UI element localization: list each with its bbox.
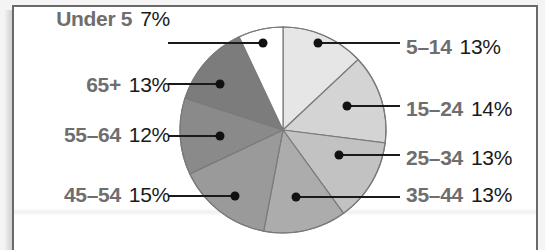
label-category: 45–54 — [64, 183, 121, 206]
label-percent: 13% — [471, 183, 512, 206]
label-category: 35–44 — [406, 183, 463, 206]
label-percent: 12% — [129, 123, 170, 146]
label-percent: 14% — [471, 97, 512, 120]
pie-slices — [180, 27, 386, 233]
label-category: 15–24 — [406, 97, 463, 120]
label-55-64: 55–6412% — [20, 123, 170, 147]
label-45-54: 45–5415% — [20, 183, 170, 207]
label-35-44: 35–4413% — [406, 183, 512, 207]
label-category: 55–64 — [64, 123, 121, 146]
label-percent: 13% — [129, 73, 170, 96]
label-65-plus: 65+13% — [20, 73, 170, 97]
label-5-14: 5–1413% — [406, 35, 501, 59]
label-percent: 13% — [460, 35, 501, 58]
label-under-5: Under 57% — [20, 7, 170, 31]
label-percent: 7% — [140, 7, 170, 30]
label-percent: 13% — [471, 146, 512, 169]
label-percent: 15% — [129, 183, 170, 206]
label-category: 25–34 — [406, 146, 463, 169]
label-category: 65+ — [86, 73, 121, 96]
label-15-24: 15–2414% — [406, 97, 512, 121]
label-category: Under 5 — [56, 7, 132, 30]
label-category: 5–14 — [406, 35, 452, 58]
label-25-34: 25–3413% — [406, 146, 512, 170]
